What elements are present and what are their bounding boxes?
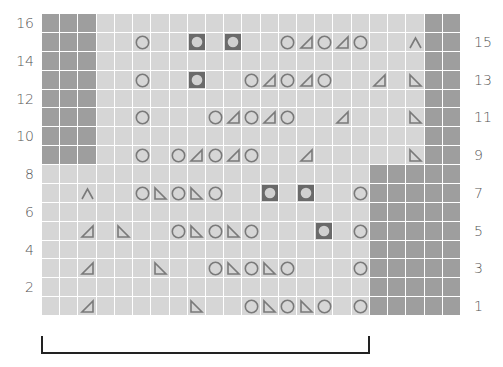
stitch-cell (133, 203, 151, 222)
stitch-cell (333, 222, 351, 241)
no-stitch-cell (425, 33, 443, 52)
repeat-bracket (41, 336, 370, 354)
no-stitch-cell (60, 33, 78, 52)
left-decrease-icon (224, 108, 242, 127)
stitch-cell (242, 165, 260, 184)
row-label-right: 1 (474, 298, 483, 314)
stitch-cell (388, 52, 406, 71)
no-stitch-cell (425, 14, 443, 33)
stitch-cell (352, 278, 370, 297)
stitch-cell (315, 241, 333, 260)
stitch-cell (151, 52, 169, 71)
stitch-cell (333, 146, 351, 165)
stitch-cell (242, 203, 260, 222)
stitch-cell (406, 90, 424, 109)
stitch-cell (133, 14, 151, 33)
stitch-cell (315, 14, 333, 33)
stitch-cell (60, 241, 78, 260)
stitch-cell (188, 52, 206, 71)
stitch-cell (42, 297, 60, 316)
no-stitch-cell (406, 241, 424, 260)
stitch-cell (370, 127, 388, 146)
stitch-cell (151, 278, 169, 297)
stitch-cell (206, 297, 224, 316)
stitch-cell (333, 14, 351, 33)
stitch-cell (279, 52, 297, 71)
no-stitch-cell (443, 127, 461, 146)
stitch-cell (188, 259, 206, 278)
stitch-cell (151, 127, 169, 146)
stitch-cell (97, 52, 115, 71)
no-stitch-cell (443, 259, 461, 278)
stitch-cell (60, 184, 78, 203)
no-stitch-cell (388, 259, 406, 278)
no-stitch-cell (443, 52, 461, 71)
yarn-over-icon (279, 71, 297, 90)
stitch-cell (115, 14, 133, 33)
left-decrease-icon (297, 33, 315, 52)
no-stitch-cell (388, 297, 406, 316)
stitch-cell (224, 52, 242, 71)
row-label-right: 5 (474, 223, 483, 239)
no-stitch-cell (406, 203, 424, 222)
stitch-cell (333, 241, 351, 260)
stitch-cell (224, 184, 242, 203)
stitch-cell (115, 297, 133, 316)
row-label-left: 10 (8, 128, 34, 144)
stitch-cell (333, 203, 351, 222)
stitch-cell (97, 278, 115, 297)
stitch-cell (151, 165, 169, 184)
row-label-left: 8 (8, 166, 34, 182)
no-stitch-cell (78, 14, 96, 33)
stitch-cell (97, 165, 115, 184)
no-stitch-cell (443, 108, 461, 127)
stitch-cell (297, 278, 315, 297)
stitch-cell (206, 90, 224, 109)
no-stitch-cell (388, 278, 406, 297)
stitch-cell (224, 90, 242, 109)
stitch-cell (242, 52, 260, 71)
stitch-cell (78, 203, 96, 222)
stitch-cell (115, 146, 133, 165)
stitch-cell (224, 71, 242, 90)
stitch-cell (151, 297, 169, 316)
stitch-cell (315, 278, 333, 297)
yarn-over-icon (279, 259, 297, 278)
stitch-cell (315, 146, 333, 165)
left-decrease-icon (261, 108, 279, 127)
right-decrease-icon (406, 108, 424, 127)
stitch-cell (333, 184, 351, 203)
stitch-cell (297, 222, 315, 241)
no-stitch-cell (78, 127, 96, 146)
left-decrease-icon (78, 222, 96, 241)
yarn-over-icon (352, 259, 370, 278)
no-stitch-cell (42, 52, 60, 71)
stitch-cell (206, 33, 224, 52)
stitch-cell (170, 71, 188, 90)
stitch-cell (188, 278, 206, 297)
stitch-cell (60, 297, 78, 316)
yarn-over-icon (206, 184, 224, 203)
stitch-cell (352, 14, 370, 33)
yarn-over-icon (133, 33, 151, 52)
row-label-left: 6 (8, 204, 34, 220)
stitch-cell (133, 222, 151, 241)
stitch-cell (97, 127, 115, 146)
stitch-cell (352, 146, 370, 165)
stitch-cell (261, 165, 279, 184)
stitch-cell (261, 222, 279, 241)
no-stitch-cell (370, 203, 388, 222)
stitch-cell (352, 71, 370, 90)
stitch-cell (188, 14, 206, 33)
stitch-cell (279, 203, 297, 222)
yarn-over-icon (170, 146, 188, 165)
left-decrease-icon (224, 146, 242, 165)
right-decrease-icon (188, 184, 206, 203)
stitch-cell (242, 184, 260, 203)
no-stitch-cell (443, 33, 461, 52)
stitch-cell (97, 33, 115, 52)
stitch-cell (188, 108, 206, 127)
stitch-cell (188, 90, 206, 109)
stitch-cell (352, 52, 370, 71)
stitch-cell (151, 203, 169, 222)
